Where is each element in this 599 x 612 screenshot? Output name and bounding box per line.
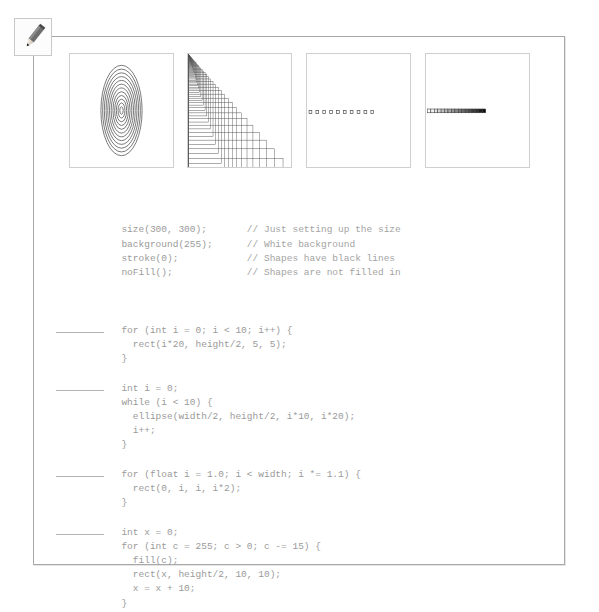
code-line: }	[56, 438, 556, 452]
code-line: noFill(); // Shapes are not filled in	[56, 266, 556, 280]
code-line: for (int c = 255; c > 0; c -= 15) {	[56, 540, 556, 554]
code-line: ellipse(width/2, height/2, i*10, i*20);	[56, 410, 556, 424]
code-spacer	[56, 366, 556, 380]
code-line: for (int i = 0; i < 10; i++) {	[56, 323, 556, 338]
code-line: size(300, 300); // Just setting up the s…	[56, 223, 556, 237]
sketch-gradient-square	[448, 109, 451, 113]
code-text: size(300, 300);	[110, 224, 247, 235]
code-text: i++;	[110, 425, 156, 436]
figure-strip: A B C D	[69, 53, 531, 193]
sketch-gradient-square	[441, 109, 444, 113]
sketch-gradient-square	[431, 109, 434, 113]
code-line: stroke(0); // Shapes have black lines	[56, 252, 556, 266]
sketch-gradient-square	[479, 109, 482, 113]
sketch-gradient-square	[458, 109, 461, 113]
code-line: }	[56, 352, 556, 366]
code-text: }	[110, 439, 127, 450]
code-listing: size(300, 300); // Just setting up the s…	[56, 195, 556, 560]
code-spacer	[56, 510, 556, 524]
code-text: int x = 0;	[110, 527, 178, 538]
code-text: }	[110, 598, 127, 609]
code-text: for (int i = 0; i < 10; i++) {	[110, 325, 292, 336]
answer-blank[interactable]	[56, 323, 104, 333]
code-block: int i = 0; while (i < 10) { ellipse(widt…	[56, 381, 556, 453]
code-blocks-host: for (int i = 0; i < 10; i++) { rect(i*20…	[56, 309, 556, 611]
code-spacer	[56, 309, 556, 323]
sketch-gradient-square	[445, 109, 448, 113]
code-line: for (float i = 1.0; i < width; i *= 1.1)…	[56, 467, 556, 482]
code-comment: // Just setting up the size	[247, 224, 401, 235]
sketch-gradient-square	[465, 109, 468, 113]
sketch-output-growing-rects	[188, 54, 291, 167]
sketch-output-gradient-row	[426, 54, 529, 167]
code-comment: // Shapes have black lines	[247, 253, 395, 264]
code-text: int i = 0;	[110, 383, 178, 394]
code-line: }	[56, 597, 556, 611]
figure-panel-d: D	[425, 53, 530, 168]
sketch-gradient-square	[434, 109, 437, 113]
code-text: ellipse(width/2, height/2, i*10, i*20);	[110, 411, 355, 422]
code-comment: // White background	[247, 239, 355, 250]
code-text: rect(x, height/2, 10, 10);	[110, 569, 281, 580]
sketch-gradient-square	[469, 109, 472, 113]
code-block: int x = 0; for (int c = 255; c > 0; c -=…	[56, 525, 556, 611]
code-line: rect(x, height/2, 10, 10);	[56, 568, 556, 582]
worksheet-page: A B C D size(300	[33, 36, 565, 565]
code-spacer	[56, 453, 556, 467]
figure-panel-a: A	[69, 53, 174, 168]
code-text: stroke(0);	[110, 253, 247, 264]
code-line: x = x + 10;	[56, 582, 556, 596]
pencil-badge	[14, 18, 52, 56]
code-text: rect(0, i, i, i*2);	[110, 483, 241, 494]
answer-blank[interactable]	[56, 525, 104, 535]
sketch-gradient-square	[451, 109, 454, 113]
code-comment: // Shapes are not filled in	[247, 267, 401, 278]
code-text: noFill();	[110, 267, 247, 278]
code-line: int i = 0;	[56, 381, 556, 396]
sketch-output-ellipses	[70, 54, 173, 167]
answer-blank[interactable]	[56, 467, 104, 477]
sketch-gradient-square	[472, 109, 475, 113]
code-line: rect(0, i, i, i*2);	[56, 482, 556, 496]
sketch-output-square-row	[307, 54, 410, 167]
sketch-gradient-square	[482, 109, 485, 113]
code-text: for (int c = 255; c > 0; c -= 15) {	[110, 541, 321, 552]
answer-blank[interactable]	[56, 381, 104, 391]
sketch-gradient-square	[462, 109, 465, 113]
sketch-gradient-square	[427, 109, 430, 113]
sketch-gradient-square	[475, 109, 478, 113]
code-line: rect(i*20, height/2, 5, 5);	[56, 338, 556, 352]
code-text: background(255);	[110, 239, 247, 250]
code-line: }	[56, 496, 556, 510]
sketch-gradient-square	[455, 109, 458, 113]
sketch-gradient-square	[438, 109, 441, 113]
pencil-icon	[15, 19, 51, 55]
code-line: fill(c);	[56, 554, 556, 568]
code-block: for (float i = 1.0; i < width; i *= 1.1)…	[56, 467, 556, 511]
code-line: i++;	[56, 424, 556, 438]
code-text: rect(i*20, height/2, 5, 5);	[110, 339, 287, 350]
code-line: while (i < 10) {	[56, 396, 556, 410]
code-text: }	[110, 353, 127, 364]
code-block: for (int i = 0; i < 10; i++) { rect(i*20…	[56, 323, 556, 367]
code-line: int x = 0;	[56, 525, 556, 540]
code-text: for (float i = 1.0; i < width; i *= 1.1)…	[110, 469, 361, 480]
code-text: while (i < 10) {	[110, 397, 213, 408]
figure-panel-b: B	[187, 53, 292, 168]
code-text: fill(c);	[110, 555, 178, 566]
code-text: x = x + 10;	[110, 583, 196, 594]
figure-panel-c: C	[306, 53, 411, 168]
code-block-preamble: size(300, 300); // Just setting up the s…	[56, 223, 556, 280]
code-line: background(255); // White background	[56, 238, 556, 252]
code-text: }	[110, 497, 127, 508]
